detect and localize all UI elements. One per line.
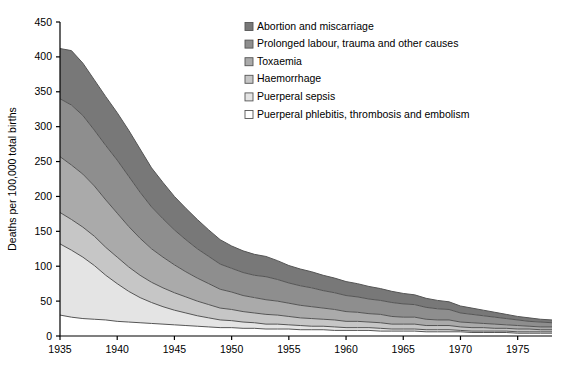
y-tick-label: 50 bbox=[40, 295, 52, 307]
y-axis-title: Deaths per 100,000 total births bbox=[6, 107, 18, 251]
y-tick-label: 300 bbox=[34, 120, 52, 132]
legend-label-0: Abortion and miscarriage bbox=[257, 20, 374, 32]
legend-swatch-1 bbox=[245, 40, 253, 48]
x-tick-label: 1955 bbox=[277, 343, 301, 355]
legend: Abortion and miscarriageProlonged labour… bbox=[245, 20, 470, 120]
legend-label-2: Toxaemia bbox=[257, 55, 302, 67]
legend-swatch-4 bbox=[245, 93, 253, 101]
x-tick-label: 1950 bbox=[220, 343, 244, 355]
legend-label-3: Haemorrhage bbox=[257, 72, 321, 84]
legend-swatch-2 bbox=[245, 58, 253, 66]
x-tick-label: 1940 bbox=[106, 343, 130, 355]
y-tick-label: 0 bbox=[46, 330, 52, 342]
legend-label-4: Puerperal sepsis bbox=[257, 90, 335, 102]
y-tick-label: 150 bbox=[34, 225, 52, 237]
legend-swatch-5 bbox=[245, 111, 253, 119]
x-tick-label: 1965 bbox=[392, 343, 416, 355]
y-tick-label: 200 bbox=[34, 190, 52, 202]
stacked-area-chart: 0501001502002503003504004501935194019451… bbox=[0, 0, 563, 371]
y-tick-label: 400 bbox=[34, 50, 52, 62]
legend-label-1: Prolonged labour, trauma and other cause… bbox=[257, 37, 458, 49]
legend-swatch-0 bbox=[245, 23, 253, 31]
x-tick-label: 1970 bbox=[449, 343, 473, 355]
x-tick-label: 1935 bbox=[48, 343, 72, 355]
y-tick-label: 350 bbox=[34, 85, 52, 97]
chart-figure: 0501001502002503003504004501935194019451… bbox=[0, 0, 563, 371]
y-axis-ticks: 050100150200250300350400450 bbox=[34, 16, 60, 342]
legend-swatch-3 bbox=[245, 75, 253, 83]
y-tick-label: 450 bbox=[34, 16, 52, 28]
x-tick-label: 1975 bbox=[506, 343, 530, 355]
x-axis-ticks: 193519401945195019551960196519701975 bbox=[48, 336, 529, 355]
x-tick-label: 1945 bbox=[163, 343, 187, 355]
y-tick-label: 250 bbox=[34, 155, 52, 167]
y-tick-label: 100 bbox=[34, 260, 52, 272]
x-tick-label: 1960 bbox=[334, 343, 358, 355]
legend-label-5: Puerperal phlebitis, thrombosis and embo… bbox=[257, 108, 470, 120]
